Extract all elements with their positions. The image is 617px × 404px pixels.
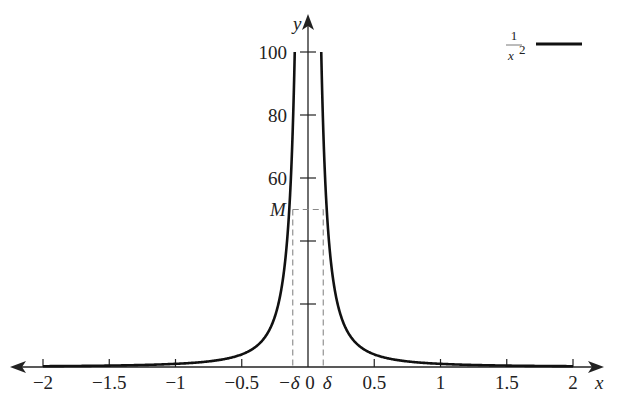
m-label: M	[269, 199, 287, 220]
x-tick-label: −1.5	[92, 372, 126, 393]
x-tick-label: −0.5	[225, 372, 259, 393]
x-tick-label: −1	[165, 372, 185, 393]
curve-1-over-x-squared	[43, 52, 295, 366]
x-special-label: δ	[323, 372, 333, 393]
legend-denominator: x	[507, 48, 514, 63]
y-tick-label: 100	[259, 42, 288, 63]
curve-1-over-x-squared	[321, 52, 573, 366]
y-tick-label: 60	[268, 168, 287, 189]
x-tick-label: −2	[33, 372, 53, 393]
x-special-label: −δ	[278, 372, 301, 393]
axes	[10, 14, 604, 373]
legend-exponent: 2	[519, 42, 526, 57]
tick-labels: −2−1.5−1−0.50.511.52−δ0δ6080100	[33, 42, 578, 393]
chart-svg: −2−1.5−1−0.50.511.52−δ0δ6080100 1 x 2 y …	[0, 0, 617, 404]
legend: 1 x 2	[506, 28, 582, 63]
x-axis-name: x	[594, 372, 604, 393]
x-special-label: 0	[305, 372, 315, 393]
legend-numerator: 1	[511, 28, 518, 43]
x-tick-label: 1	[436, 372, 446, 393]
x-tick-label: 1.5	[495, 372, 519, 393]
y-axis-name: y	[291, 13, 302, 34]
x-tick-label: 0.5	[362, 372, 386, 393]
x-tick-label: 2	[568, 372, 578, 393]
y-tick-label: 80	[268, 105, 287, 126]
